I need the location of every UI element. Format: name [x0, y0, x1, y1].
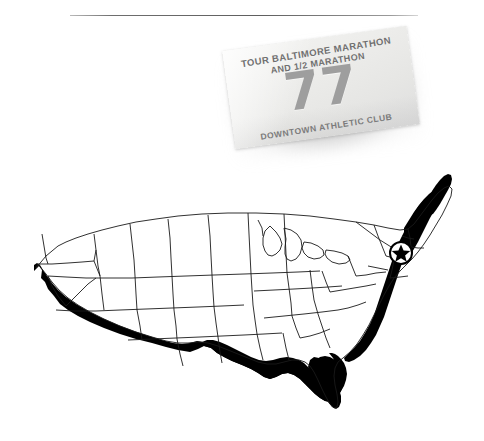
document-page: TOUR BALTIMORE MARATHON AND 1/2 MARATHON…	[0, 0, 484, 441]
map-coast-shadow	[34, 174, 452, 409]
header-divider	[70, 15, 418, 16]
us-map	[8, 158, 476, 410]
baltimore-star-marker	[390, 242, 412, 264]
race-bib-photo: TOUR BALTIMORE MARATHON AND 1/2 MARATHON…	[222, 36, 422, 156]
